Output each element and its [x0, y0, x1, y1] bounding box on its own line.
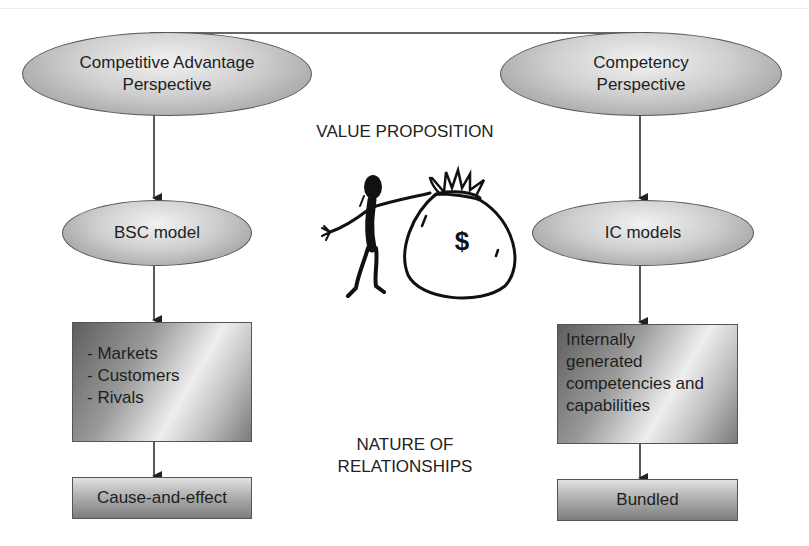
model-label: IC models	[605, 222, 682, 244]
bundled-box: Bundled	[557, 479, 738, 521]
competency-line-1: Internally	[566, 329, 737, 351]
competency-line-2: generated	[566, 351, 737, 373]
factor-rivals: - Rivals	[87, 387, 251, 409]
person-with-money-bag-icon	[322, 170, 515, 298]
internal-competencies-box: Internally generated competencies and ca…	[557, 324, 738, 444]
competency-perspective-node: Competency Perspective	[500, 32, 782, 116]
nature-line-2: RELATIONSHIPS	[310, 456, 500, 478]
dollar-sign-icon: $	[455, 226, 470, 256]
competency-line-3: competencies and	[566, 373, 737, 395]
market-factors-box: - Markets - Customers - Rivals	[72, 322, 252, 442]
ic-models-node: IC models	[532, 200, 754, 266]
perspective-line-2: Perspective	[123, 74, 212, 96]
relationship-label: Bundled	[616, 489, 678, 511]
perspective-line-1: Competency	[593, 52, 688, 74]
perspective-line-1: Competitive Advantage	[80, 52, 255, 74]
competency-line-4: capabilities	[566, 395, 737, 417]
cause-and-effect-box: Cause-and-effect	[72, 477, 252, 519]
relationship-label: Cause-and-effect	[97, 487, 227, 509]
factor-customers: - Customers	[87, 365, 251, 387]
nature-of-relationships-label: NATURE OF RELATIONSHIPS	[310, 434, 500, 478]
model-label: BSC model	[114, 222, 200, 244]
nature-line-1: NATURE OF	[310, 434, 500, 456]
competitive-advantage-perspective-node: Competitive Advantage Perspective	[22, 32, 312, 116]
bsc-model-node: BSC model	[62, 200, 252, 266]
value-proposition-label: VALUE PROPOSITION	[300, 121, 510, 143]
perspective-line-2: Perspective	[597, 74, 686, 96]
factor-markets: - Markets	[87, 343, 251, 365]
value-proposition-text: VALUE PROPOSITION	[316, 122, 493, 141]
